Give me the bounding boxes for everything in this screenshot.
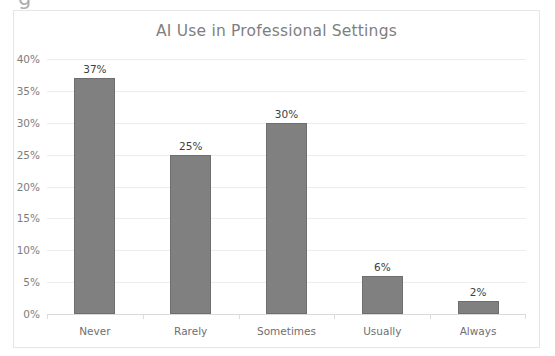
plot-area: 40%35%30%25%20%15%10%5%0% 37%Never25%Rar…	[47, 59, 526, 314]
clipped-text-above-chart: g	[18, 0, 32, 10]
y-axis-tick-label: 35%	[17, 85, 40, 97]
bar-value-label: 25%	[179, 140, 202, 152]
x-axis-category-label: Never	[79, 325, 110, 337]
bar[interactable]: 25%	[170, 155, 211, 314]
bar[interactable]: 37%	[74, 78, 115, 314]
x-axis-category-label: Rarely	[174, 325, 207, 337]
x-axis-tick	[239, 314, 240, 319]
y-axis-tick-label: 40%	[17, 53, 40, 65]
y-axis-tick-label: 25%	[17, 149, 40, 161]
bar-value-label: 37%	[83, 63, 106, 75]
axis-baseline	[47, 314, 526, 315]
bar[interactable]: 2%	[458, 301, 499, 314]
x-axis-category-label: Always	[460, 325, 497, 337]
bar[interactable]: 30%	[266, 123, 307, 314]
y-axis-tick-label: 15%	[17, 212, 40, 224]
x-axis-category-label: Usually	[363, 325, 401, 337]
bar-value-label: 30%	[275, 108, 298, 120]
y-axis-tick-label: 5%	[23, 276, 40, 288]
bar[interactable]: 6%	[362, 276, 403, 314]
chart-container: AI Use in Professional Settings 40%35%30…	[13, 10, 540, 348]
bar-value-label: 2%	[470, 286, 487, 298]
x-axis-tick	[334, 314, 335, 319]
x-axis-tick	[525, 314, 526, 319]
y-axis-tick-label: 10%	[17, 244, 40, 256]
bar-series: 37%Never25%Rarely30%Sometimes6%Usually2%…	[47, 59, 526, 314]
y-axis-tick-label: 20%	[17, 181, 40, 193]
x-axis-category-label: Sometimes	[257, 325, 316, 337]
x-axis-tick	[430, 314, 431, 319]
x-axis-tick	[47, 314, 48, 319]
bar-slot: 2%Always	[430, 59, 526, 314]
y-axis-tick-label: 0%	[23, 308, 40, 320]
bar-value-label: 6%	[374, 261, 391, 273]
bar-slot: 30%Sometimes	[239, 59, 335, 314]
bar-slot: 37%Never	[47, 59, 143, 314]
chart-title: AI Use in Professional Settings	[14, 22, 539, 40]
bar-slot: 25%Rarely	[143, 59, 239, 314]
y-axis-tick-label: 30%	[17, 117, 40, 129]
x-axis-tick	[143, 314, 144, 319]
bar-slot: 6%Usually	[334, 59, 430, 314]
